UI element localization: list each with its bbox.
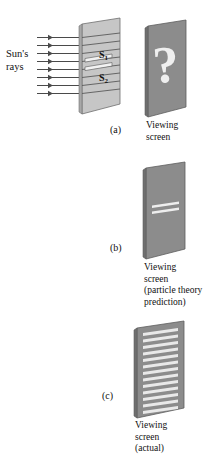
suns-rays-label: Sun's rays [6, 47, 28, 73]
panel-letter-c: (c) [102, 390, 113, 401]
panel-letter-b: (b) [110, 242, 122, 253]
figure-canvas: ? [0, 0, 223, 455]
ray-arrowheads [48, 35, 53, 96]
viewing-screen-a-edge [145, 26, 148, 117]
slit-s2-subscript: 2 [105, 77, 109, 85]
panel-c-caption: Viewing screen (actual) [135, 420, 167, 455]
panel-b-caption: Viewing screen (particle theory predicti… [144, 262, 202, 308]
slit-s1-letter: S [99, 49, 105, 60]
slit-s1-label: S1 [99, 49, 108, 60]
panel-a-caption: Viewing screen [146, 120, 178, 143]
viewing-screen-c-edge [134, 328, 137, 418]
svg-text:?: ? [151, 35, 181, 94]
slit-s2-letter: S [99, 72, 105, 83]
slit-s1-subscript: 1 [105, 54, 109, 62]
barrier-edge [79, 24, 82, 114]
question-mark-mark: ? [151, 35, 181, 94]
viewing-screen-b-edge [143, 168, 146, 259]
panel-a-group: ? [37, 18, 186, 117]
panel-letter-a: (a) [110, 124, 121, 135]
panel-c-group [134, 321, 184, 418]
slit-s2-label: S2 [99, 72, 108, 83]
panel-b-group [143, 162, 185, 259]
double-slit-figure: ? [0, 0, 223, 455]
